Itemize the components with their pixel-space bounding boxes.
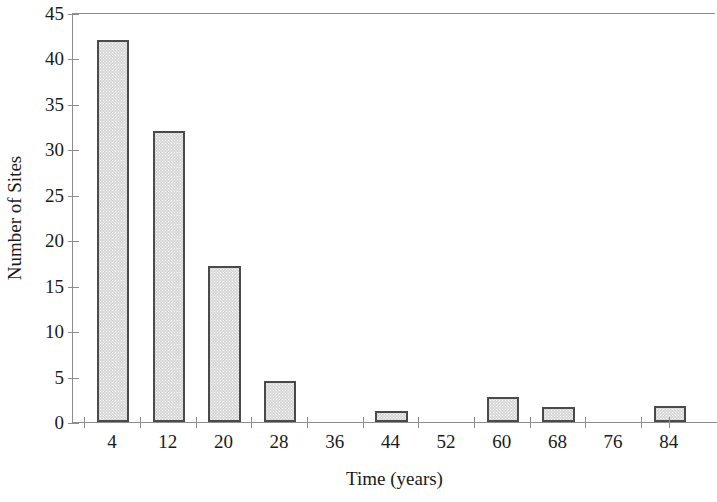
x-axis-tick-label: 52 [437,432,456,451]
y-axis-tick [68,196,79,197]
y-axis-tick [68,105,79,106]
y-axis-tick-label: 0 [55,413,65,432]
bar [375,411,407,422]
x-axis-tick [140,417,141,428]
x-axis-tick [530,417,531,428]
y-axis-tick [68,378,79,379]
y-axis-tick-label: 20 [45,231,64,250]
x-axis-tick [196,417,197,428]
y-axis-tick-labels: 051015202530354045 [28,0,70,502]
x-axis-tick-label: 4 [107,432,117,451]
bar [153,131,185,422]
x-axis-tick-labels: 412202836445260687684 [72,432,717,460]
x-axis-tick-label: 44 [381,432,400,451]
x-axis-title: Time (years) [72,468,717,490]
y-axis-tick-label: 30 [45,140,64,159]
y-axis-tick-label: 35 [45,94,64,113]
bar [487,397,519,422]
x-axis-line [72,422,717,423]
y-axis-tick-label: 15 [45,276,64,295]
y-axis-tick [68,150,79,151]
x-axis-tick [84,417,85,428]
bar [97,40,129,422]
x-axis-tick-label: 36 [325,432,344,451]
y-axis-tick [68,59,79,60]
y-axis-tick-label: 45 [45,4,64,23]
y-axis-tick [68,287,79,288]
x-axis-tick-label: 12 [158,432,177,451]
x-axis-tick-label: 28 [270,432,289,451]
y-axis-tick [68,332,79,333]
x-axis-tick [363,417,364,428]
x-axis-tick [307,417,308,428]
x-axis-tick-label: 68 [548,432,567,451]
y-axis-tick-label: 10 [45,322,64,341]
bar [654,406,686,422]
x-axis-tick [418,417,419,428]
y-axis-title: Number of Sites [2,10,28,430]
histogram-figure: Number of Sites 051015202530354045 41220… [0,0,717,502]
x-axis-tick-label: 60 [492,432,511,451]
x-axis-tick [585,417,586,428]
y-axis-title-text: Number of Sites [4,8,26,428]
bar [542,407,574,422]
plot-area [72,13,715,422]
x-axis-tick [251,417,252,428]
y-axis-tick-label: 5 [55,367,65,386]
y-axis-tick [68,241,79,242]
y-axis-tick [68,14,79,15]
x-axis-tick-label: 20 [214,432,233,451]
bar [264,381,296,422]
x-axis-tick [669,417,670,428]
x-axis-tick-label: 76 [604,432,623,451]
x-axis-tick-label: 84 [659,432,678,451]
y-axis-tick-label: 25 [45,185,64,204]
y-axis-tick [68,423,79,424]
x-axis-tick [474,417,475,428]
y-axis-tick-label: 40 [45,49,64,68]
x-axis-tick [641,417,642,428]
bar [208,266,240,422]
